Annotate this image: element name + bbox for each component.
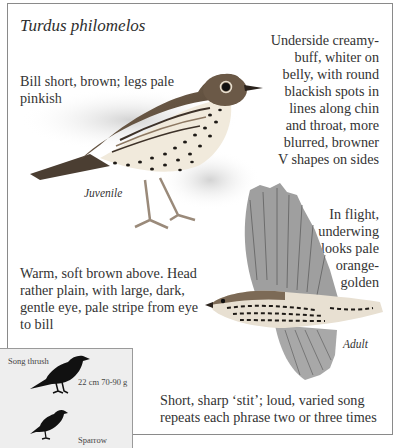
note-line: repeats each phrase two or three times — [160, 409, 390, 426]
note-voice: Short, sharp ‘stit’; loud, varied song r… — [160, 392, 390, 426]
note-line: buff, whiter on — [239, 49, 379, 66]
note-line: rather plain, with large, dark, — [20, 282, 220, 299]
adult-label: Adult — [343, 338, 368, 350]
note-line: gentle eye, pale stripe from eye — [20, 299, 220, 316]
song-thrush-measurements: 22 cm 70-90 g — [78, 377, 127, 387]
note-line: Short, sharp ‘stit’; loud, varied song — [160, 392, 390, 409]
sparrow-silhouette — [28, 406, 68, 442]
note-line: Warm, soft brown above. Head — [20, 265, 220, 282]
note-upperparts: Warm, soft brown above. Head rather plai… — [20, 265, 220, 333]
sparrow-label: Sparrow — [78, 435, 107, 445]
song-thrush-silhouette — [28, 353, 92, 395]
juvenile-label: Juvenile — [84, 187, 122, 199]
adult-thrush-flight-illustration — [205, 180, 390, 380]
size-comparison-box: Song thrush 22 cm 70-90 g Sparrow — [0, 348, 133, 448]
note-line: Underside creamy- — [239, 32, 379, 49]
note-line: to bill — [20, 316, 220, 333]
species-title: Turdus philomelos — [20, 16, 145, 36]
